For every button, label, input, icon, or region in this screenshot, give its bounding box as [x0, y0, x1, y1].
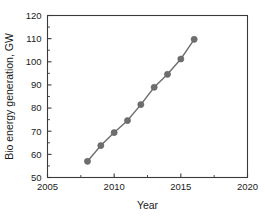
y-tick-label: 100 [26, 56, 42, 67]
x-tick-label: 2020 [237, 181, 258, 192]
y-tick-label: 120 [26, 10, 42, 21]
data-point-marker [151, 84, 157, 90]
x-axis-title: Year [137, 199, 159, 211]
y-tick-label: 110 [26, 33, 41, 44]
y-tick-label: 70 [31, 126, 42, 137]
x-tick-label: 2010 [104, 181, 125, 192]
y-tick-label: 80 [31, 102, 42, 113]
y-axis-tick-labels: 5060708090100110120 [26, 10, 42, 183]
y-axis-title: Bio energy generation, GW [3, 33, 15, 160]
data-point-marker [178, 56, 184, 62]
x-axis-tick-labels: 2005201020152020 [37, 181, 258, 192]
line-chart-canvas: 5060708090100110120 2005201020152020 Yea… [0, 0, 265, 217]
chart-figure: 5060708090100110120 2005201020152020 Yea… [0, 0, 265, 217]
y-tick-label: 60 [31, 149, 42, 160]
data-point-marker [84, 158, 90, 164]
data-series-bio-energy [84, 36, 197, 164]
data-point-marker [111, 130, 117, 136]
x-tick-label: 2015 [170, 181, 191, 192]
data-point-marker [124, 117, 130, 123]
data-point-marker [138, 102, 144, 108]
data-point-marker [191, 36, 197, 42]
y-tick-label: 90 [31, 79, 42, 90]
data-point-marker [164, 71, 170, 77]
x-tick-label: 2005 [37, 181, 58, 192]
data-point-marker [98, 142, 104, 148]
